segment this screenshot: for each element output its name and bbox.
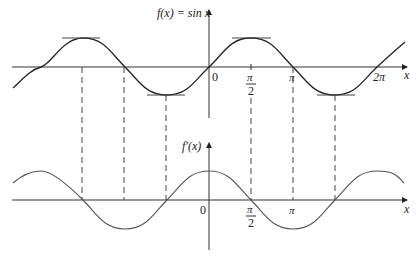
top-half-pi-den: 2 xyxy=(248,84,254,98)
bottom-half-pi-den: 2 xyxy=(248,216,254,230)
top-graph: f(x) = sin x x 0 π 2 π 2π xyxy=(12,6,410,118)
top-pi-label: π xyxy=(289,71,295,83)
bottom-graph: f′(x) x 0 π 2 π xyxy=(12,139,410,250)
top-function-label: f(x) = sin x xyxy=(157,6,211,20)
bottom-half-pi-num: π xyxy=(247,203,253,215)
top-origin-label: 0 xyxy=(212,70,218,84)
bottom-pi-label: π xyxy=(289,204,295,216)
bottom-function-label: f′(x) xyxy=(182,139,201,153)
derivative-diagram: f(x) = sin x x 0 π 2 π 2π f′(x) x 0 π 2 … xyxy=(0,0,417,257)
bottom-x-axis-label: x xyxy=(403,202,410,216)
top-half-pi-num: π xyxy=(247,71,253,83)
bottom-origin-label: 0 xyxy=(200,203,206,217)
top-x-axis-label: x xyxy=(403,68,410,82)
top-two-pi-label: 2π xyxy=(373,70,386,84)
